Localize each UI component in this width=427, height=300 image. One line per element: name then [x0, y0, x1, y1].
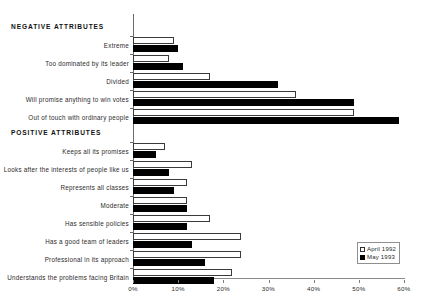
- bar-row-too-dominated-by-its-leader: Too dominated by its leader: [133, 54, 404, 72]
- bar-april-1992-keeps-all-its-promises: [133, 143, 165, 150]
- x-axis-tick: [359, 280, 360, 283]
- bar-may-1993-too-dominated-by-its-leader: [133, 63, 183, 70]
- bar-row-label: Too dominated by its leader: [45, 60, 129, 67]
- x-axis-tick-label: 30%: [262, 285, 275, 292]
- bar-row-will-promise-anything-to-win-votes: Will promise anything to win votes: [133, 90, 404, 108]
- x-axis-tick-label: 40%: [307, 285, 320, 292]
- bar-row-label: Has sensible policies: [65, 220, 129, 227]
- section-heading-negative: NEGATIVE ATTRIBUTES: [11, 23, 104, 30]
- plot-area: ExtremeToo dominated by its leaderDivide…: [133, 14, 404, 278]
- bar-april-1992-extreme: [133, 37, 174, 44]
- x-axis-tick-label: 50%: [352, 285, 365, 292]
- bar-chart: NEGATIVE ATTRIBUTES POSITIVE ATTRIBUTES …: [0, 0, 427, 300]
- bar-row-has-sensible-policies: Has sensible policies: [133, 214, 404, 232]
- bar-row-label: Moderate: [100, 202, 129, 209]
- bar-row-divided: Divided: [133, 72, 404, 90]
- bar-may-1993-looks-after-the-interests-of-people-like-us: [133, 169, 169, 176]
- bar-may-1993-will-promise-anything-to-win-votes: [133, 99, 354, 106]
- bar-row-label: Looks after the interests of people like…: [4, 166, 129, 173]
- bar-april-1992-too-dominated-by-its-leader: [133, 55, 169, 62]
- bar-row-label: Will promise anything to win votes: [26, 96, 129, 103]
- legend: April 1992 May 1993: [357, 242, 400, 264]
- bar-may-1993-has-a-good-team-of-leaders: [133, 241, 192, 248]
- bar-may-1993-has-sensible-policies: [133, 223, 187, 230]
- bar-row-moderate: Moderate: [133, 196, 404, 214]
- bar-april-1992-will-promise-anything-to-win-votes: [133, 91, 296, 98]
- bar-may-1993-divided: [133, 81, 278, 88]
- bar-may-1993-keeps-all-its-promises: [133, 151, 156, 158]
- section-heading-positive: POSITIVE ATTRIBUTES: [11, 129, 101, 136]
- x-axis-tick-labels: 0%10%20%30%40%50%60%: [133, 280, 405, 296]
- x-axis-tick: [178, 280, 179, 283]
- legend-item-may-1993[interactable]: May 1993: [360, 253, 396, 261]
- bar-april-1992-moderate: [133, 197, 187, 204]
- bar-row-label: Has a good team of leaders: [45, 238, 129, 245]
- x-axis-tick-label: 20%: [217, 285, 230, 292]
- bar-may-1993-out-of-touch-with-ordinary-people: [133, 117, 399, 124]
- x-axis-tick-label: 10%: [172, 285, 185, 292]
- x-axis-tick: [404, 280, 405, 283]
- bar-row-label: Keeps all its promises: [62, 148, 129, 155]
- bar-april-1992-has-sensible-policies: [133, 215, 210, 222]
- legend-label-may-1993: May 1993: [367, 254, 395, 260]
- legend-swatch-icon-may-1993: [360, 255, 365, 260]
- bar-row-label: Understands the problems facing Britain: [7, 274, 129, 281]
- x-axis-tick: [133, 280, 134, 283]
- x-axis-tick: [223, 280, 224, 283]
- legend-label-april-1992: April 1992: [367, 246, 396, 252]
- x-axis-tick: [314, 280, 315, 283]
- legend-swatch-icon-april-1992: [360, 247, 365, 252]
- legend-item-april-1992[interactable]: April 1992: [360, 245, 396, 253]
- bar-april-1992-represents-all-classes: [133, 179, 187, 186]
- bar-row-label: Divided: [106, 78, 129, 85]
- bar-row-looks-after-the-interests-of-people-like-us: Looks after the interests of people like…: [133, 160, 404, 178]
- bar-may-1993-professional-in-its-approach: [133, 259, 205, 266]
- bar-row-keeps-all-its-promises: Keeps all its promises: [133, 142, 404, 160]
- bar-april-1992-divided: [133, 73, 210, 80]
- x-axis-tick-label: 0%: [128, 285, 138, 292]
- bar-april-1992-out-of-touch-with-ordinary-people: [133, 109, 354, 116]
- bar-row-represents-all-classes: Represents all classes: [133, 178, 404, 196]
- bar-row-label: Professional in its approach: [45, 256, 129, 263]
- bar-may-1993-moderate: [133, 205, 187, 212]
- bar-april-1992-has-a-good-team-of-leaders: [133, 233, 241, 240]
- bar-april-1992-understands-the-problems-facing-britain: [133, 269, 232, 276]
- bar-april-1992-professional-in-its-approach: [133, 251, 241, 258]
- x-axis-tick: [269, 280, 270, 283]
- x-axis-tick-label: 60%: [397, 285, 410, 292]
- bar-row-extreme: Extreme: [133, 36, 404, 54]
- bar-row-label: Represents all classes: [61, 184, 130, 191]
- bar-row-label: Out of touch with ordinary people: [28, 114, 129, 121]
- bar-may-1993-extreme: [133, 45, 178, 52]
- bar-row-out-of-touch-with-ordinary-people: Out of touch with ordinary people: [133, 108, 404, 126]
- bar-april-1992-looks-after-the-interests-of-people-like-us: [133, 161, 192, 168]
- bar-row-label: Extreme: [104, 42, 129, 49]
- bar-may-1993-represents-all-classes: [133, 187, 174, 194]
